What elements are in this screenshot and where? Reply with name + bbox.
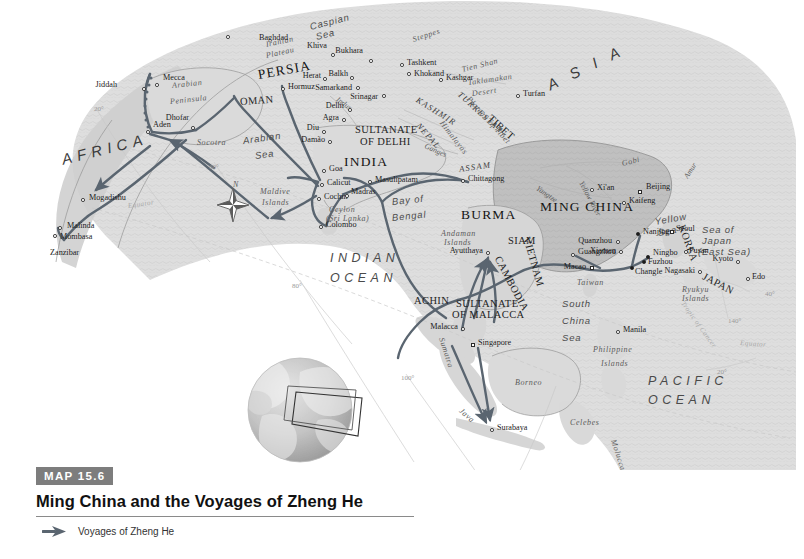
map-number-badge: MAP 15.6 xyxy=(36,467,113,485)
map-graphic xyxy=(0,0,804,470)
city-dot-fuzhou xyxy=(642,260,646,264)
city-dot-singapore xyxy=(471,343,475,347)
city-dot-turfan xyxy=(516,94,520,98)
city-dot-cochin xyxy=(317,197,321,201)
city-dot-agra xyxy=(342,118,346,122)
city-dot-mogadishu xyxy=(81,198,85,202)
city-dot-changle xyxy=(630,266,634,270)
city-dot-diu xyxy=(322,130,326,134)
legend-label-voyages: Voyages of Zheng He xyxy=(78,526,174,537)
map-badge-word: MAP xyxy=(44,470,73,482)
city-dot-nagasaki xyxy=(698,270,702,274)
caption-divider xyxy=(36,516,414,517)
city-dot-jiddah xyxy=(142,87,146,91)
city-dot-goa xyxy=(322,169,326,173)
city-dot-beijing xyxy=(638,190,642,194)
city-dot-macao xyxy=(590,266,594,270)
city-dot-balkh xyxy=(350,76,354,80)
city-dot-ningbo xyxy=(646,255,650,259)
city-dot-baghdad xyxy=(226,35,230,39)
city-dot-mecca xyxy=(155,83,159,87)
city-dot-edo xyxy=(746,277,750,281)
globe-inset xyxy=(245,358,362,462)
city-dot-masulipatam xyxy=(368,180,372,184)
city-dot-samarkand xyxy=(356,86,360,90)
city-dot-seoul xyxy=(670,230,674,234)
city-dot-malinda xyxy=(58,226,62,230)
map-title: Ming China and the Voyages of Zheng He xyxy=(36,492,456,511)
city-dot-surabaya xyxy=(490,428,494,432)
map-legend: Voyages of Zheng He xyxy=(36,525,456,538)
city-dot-madras xyxy=(345,194,349,198)
city-dot-dhofar xyxy=(191,126,195,130)
city-dot-kyoto xyxy=(736,260,740,264)
city-dot-delhi xyxy=(348,108,352,112)
city-dot-xiamen xyxy=(619,250,623,254)
city-dot-chittagong xyxy=(461,179,465,183)
city-dot-manila xyxy=(616,330,620,334)
city-dot-kaifeng xyxy=(622,201,626,205)
city-dot-srinagar xyxy=(382,94,386,98)
city-dot-calicut xyxy=(320,183,324,187)
city-dot-dam-o xyxy=(328,140,332,144)
city-dot-nanjing xyxy=(636,232,640,236)
city-dot-mombasa xyxy=(53,234,57,238)
city-dot-quanzhou xyxy=(616,240,620,244)
city-dot-khokand xyxy=(407,72,411,76)
city-dot-kashgar xyxy=(439,78,443,82)
city-dot-colombo xyxy=(319,225,323,229)
city-dot-malacca xyxy=(461,327,465,331)
city-dot-pusan xyxy=(684,250,688,254)
city-dot-hormuz xyxy=(281,87,285,91)
map-caption-block: MAP 15.6 Ming China and the Voyages of Z… xyxy=(36,466,456,538)
map-plate: AFRICAA S I AINDIANOCEANPACIFICOCEANArab… xyxy=(0,0,804,470)
city-dot-ayutthaya xyxy=(486,251,490,255)
city-dot-bukhara xyxy=(369,59,373,63)
route-arrow-icon xyxy=(42,525,68,538)
map-badge-number: 15.6 xyxy=(78,470,106,482)
city-dot-khiva xyxy=(331,53,335,57)
city-dot-herat xyxy=(323,77,327,81)
city-dot-xi-an xyxy=(590,188,594,192)
city-dot-tashkent xyxy=(400,63,404,67)
city-dot-guangzhou xyxy=(571,253,575,257)
city-dot-aden xyxy=(146,130,150,134)
